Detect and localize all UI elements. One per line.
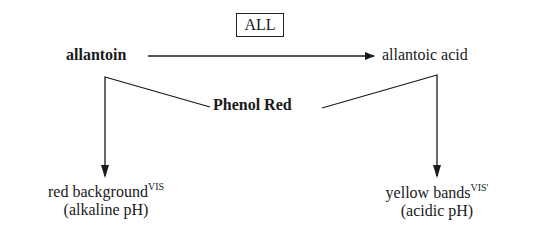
right-arrowhead-icon — [433, 165, 441, 178]
outcome-acidic-condition: (acidic pH) — [386, 202, 489, 220]
outcome-alkaline-superscript: VIS — [148, 181, 164, 192]
outcome-alkaline: red backgroundVIS (alkaline pH) — [48, 183, 164, 219]
left-arrowhead-icon — [101, 165, 109, 178]
enzyme-label: ALL — [244, 16, 275, 33]
right-indicator-connector — [322, 75, 437, 176]
enzyme-label-box: ALL — [236, 13, 284, 37]
substrate-label: allantoin — [66, 46, 126, 64]
indicator-label: Phenol Red — [213, 96, 292, 114]
outcome-acidic: yellow bandsVIS' (acidic pH) — [386, 184, 489, 220]
outcome-acidic-superscript: VIS' — [470, 182, 488, 193]
outcome-acidic-label: yellow bands — [386, 184, 471, 201]
product-label: allantoic acid — [382, 46, 468, 64]
outcome-alkaline-label: red background — [48, 183, 148, 200]
left-indicator-connector — [105, 77, 210, 176]
outcome-alkaline-condition: (alkaline pH) — [48, 201, 164, 219]
